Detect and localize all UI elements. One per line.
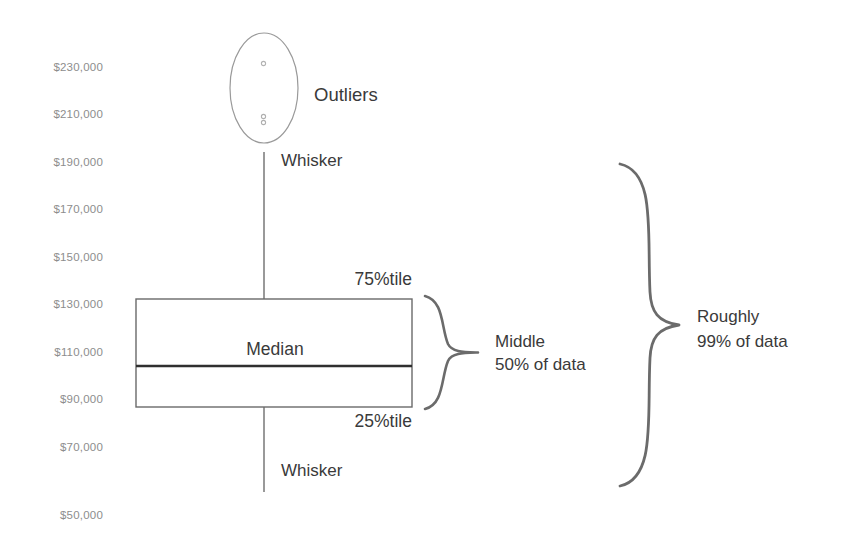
- axis-tick-label: $230,000: [13, 61, 103, 73]
- middle-50-label-line1: Middle: [495, 331, 545, 353]
- middle-50-label-line2: 50% of data: [495, 354, 586, 376]
- axis-tick-label: $150,000: [13, 251, 103, 263]
- diagram-vector-layer: [0, 0, 854, 541]
- box-plot-diagram: $230,000 $210,000 $190,000 $170,000 $150…: [0, 0, 854, 541]
- outlier-point: [261, 61, 265, 65]
- axis-tick-label: $210,000: [13, 108, 103, 120]
- axis-tick-label: $170,000: [13, 203, 103, 215]
- outliers-label: Outliers: [314, 83, 378, 107]
- roughly-99-label-line1: Roughly: [697, 306, 759, 328]
- axis-tick-label: $50,000: [13, 509, 103, 521]
- percentile-25-label: 25%tile: [252, 410, 412, 433]
- roughly-99-label-line2: 99% of data: [697, 331, 788, 353]
- axis-tick-label: $110,000: [13, 346, 103, 358]
- percentile-75-label: 75%tile: [252, 268, 412, 291]
- axis-tick-label: $70,000: [13, 441, 103, 453]
- axis-tick-label: $130,000: [13, 298, 103, 310]
- median-label: Median: [195, 338, 355, 361]
- outlier-highlight-ellipse: [230, 33, 298, 143]
- axis-tick-label: $90,000: [13, 393, 103, 405]
- brace-roughly-99: [620, 164, 679, 486]
- outlier-point: [261, 120, 265, 124]
- upper-whisker-label: Whisker: [281, 150, 342, 172]
- outlier-point: [261, 114, 265, 118]
- axis-tick-label: $190,000: [13, 156, 103, 168]
- lower-whisker-label: Whisker: [281, 460, 342, 482]
- brace-middle-50: [425, 296, 478, 409]
